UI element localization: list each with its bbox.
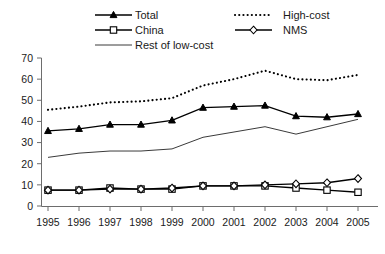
legend-item-china[interactable]: China bbox=[95, 24, 165, 36]
legend-item-nms[interactable]: NMS bbox=[235, 24, 307, 36]
legend-label-nms: NMS bbox=[283, 24, 307, 36]
x-tick-label: 2005 bbox=[346, 216, 370, 228]
x-tick-label: 2003 bbox=[284, 216, 308, 228]
legend-item-total[interactable]: Total bbox=[95, 9, 158, 21]
series-nms bbox=[45, 175, 362, 194]
chart-series bbox=[45, 71, 362, 196]
legend-label-high-cost: High-cost bbox=[283, 9, 329, 21]
series-total bbox=[45, 102, 362, 134]
legend-label-china: China bbox=[135, 24, 165, 36]
y-tick-label: 50 bbox=[21, 94, 33, 106]
y-tick-label: 70 bbox=[21, 52, 33, 64]
chart-legend: TotalHigh-costChinaNMSRest of low-cost bbox=[95, 9, 329, 51]
x-tick-label: 2002 bbox=[253, 216, 277, 228]
y-axis-ticks: 010203040506070 bbox=[21, 52, 41, 212]
y-tick-label: 0 bbox=[27, 200, 33, 212]
y-tick-label: 10 bbox=[21, 179, 33, 191]
series-path-rest-of-low-cost bbox=[48, 119, 358, 157]
chart-container: TotalHigh-costChinaNMSRest of low-cost 0… bbox=[0, 0, 385, 254]
data-point-nms bbox=[324, 179, 331, 187]
x-tick-label: 1997 bbox=[98, 216, 122, 228]
data-point-china bbox=[324, 187, 330, 193]
legend-item-high-cost[interactable]: High-cost bbox=[235, 9, 329, 21]
legend-item-rest-of-low-cost[interactable]: Rest of low-cost bbox=[95, 39, 213, 51]
x-axis-ticks: 1995199619971998199920002001200220032004… bbox=[36, 207, 370, 229]
y-tick-label: 30 bbox=[21, 136, 33, 148]
legend-label-total: Total bbox=[135, 9, 158, 21]
x-tick-label: 1996 bbox=[67, 216, 91, 228]
data-point-total bbox=[355, 110, 362, 116]
series-rest-of-low-cost bbox=[48, 119, 358, 157]
x-tick-label: 1998 bbox=[129, 216, 153, 228]
x-tick-label: 1999 bbox=[160, 216, 184, 228]
y-tick-label: 20 bbox=[21, 158, 33, 170]
line-chart: TotalHigh-costChinaNMSRest of low-cost 0… bbox=[0, 0, 385, 254]
data-point-china bbox=[355, 189, 361, 195]
legend-marker-nms bbox=[250, 26, 257, 34]
legend-label-rest-of-low-cost: Rest of low-cost bbox=[135, 39, 213, 51]
x-tick-label: 2004 bbox=[315, 216, 339, 228]
x-tick-label: 1995 bbox=[36, 216, 60, 228]
x-tick-label: 2001 bbox=[222, 216, 246, 228]
y-tick-label: 40 bbox=[21, 115, 33, 127]
x-tick-label: 2000 bbox=[191, 216, 215, 228]
legend-marker-china bbox=[110, 27, 116, 33]
y-tick-label: 60 bbox=[21, 73, 33, 85]
data-point-nms bbox=[355, 175, 362, 183]
